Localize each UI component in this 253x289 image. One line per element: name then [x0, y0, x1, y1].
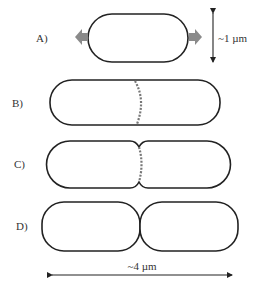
daughter-cell-left — [42, 202, 140, 251]
panel-b-label: B) — [12, 97, 23, 110]
length-scale-label: ~4 µm — [127, 260, 157, 272]
growth-arrow-left-icon — [75, 29, 88, 45]
width-scale-label: ~1 µm — [218, 32, 248, 44]
panel-c-label: C) — [14, 158, 25, 171]
cell-b — [50, 80, 220, 125]
panel-a: A) ~1 µm — [36, 13, 248, 62]
panel-c: C) — [14, 141, 230, 188]
growth-arrow-right-icon — [189, 29, 202, 45]
cell-a — [88, 14, 188, 62]
daughter-cell-right — [140, 202, 238, 251]
panel-a-label: A) — [36, 32, 48, 45]
panel-d: D) ~4 µm — [16, 202, 238, 275]
cell-division-diagram: A) ~1 µm B) C) D) ~4 µm — [0, 0, 253, 289]
panel-d-label: D) — [16, 220, 28, 233]
panel-b: B) — [12, 80, 220, 125]
